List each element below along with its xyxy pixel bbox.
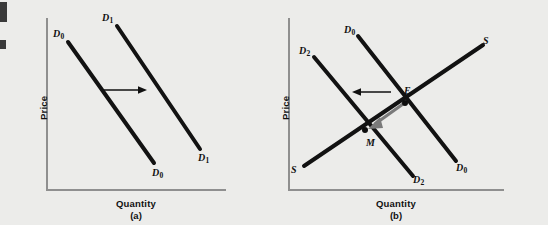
panel-b-curves — [274, 0, 548, 225]
panel-b-label-d2-top: D2 — [299, 45, 310, 56]
panel-b: Price Quantity (b) S — [274, 0, 548, 225]
panel-b-label-d0-bottom: D0 — [456, 162, 467, 173]
panel-b-label-d2-bottom: D2 — [413, 174, 424, 185]
panel-a-label-d0-top: D0 — [53, 28, 64, 39]
panel-b-demand-shift-arrow — [352, 88, 391, 96]
panel-b-point-e-dot — [402, 100, 408, 106]
panel-b-curve-d2 — [314, 57, 413, 176]
panel-b-label-d0-top: D0 — [344, 24, 355, 35]
panel-a-label-d1-bottom: D1 — [198, 152, 209, 163]
panel-a-curves — [0, 0, 274, 225]
panel-b-label-s-top: S — [483, 35, 489, 46]
panel-b-curve-s — [304, 45, 483, 166]
panel-b-point-m-dot — [362, 127, 368, 133]
panel-a-label-d0-bottom: D0 — [152, 167, 163, 178]
panel-a-label-d1-top: D1 — [102, 12, 113, 23]
panel-b-point-m-label: M — [366, 137, 375, 148]
panel-b-point-e-label: E — [404, 85, 411, 96]
figure-supply-demand-shifts: Price Quantity (a) D0 D0 D1 D1 — [0, 0, 548, 225]
panel-a: Price Quantity (a) D0 D0 D1 D1 — [0, 0, 274, 225]
panel-a-demand-shift-arrow — [104, 86, 147, 94]
panel-b-label-s-bottom: S — [291, 164, 297, 175]
panel-b-equilibrium-move-arrow — [368, 104, 403, 129]
